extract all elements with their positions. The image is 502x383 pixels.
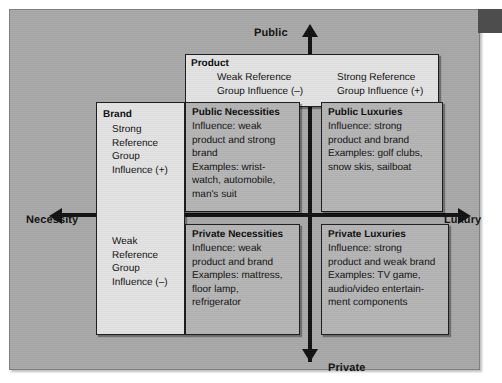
axis-label-private: Private (328, 362, 365, 374)
figure-canvas: Public Private Necessity Luxury Product … (9, 9, 480, 370)
text-line: brand (192, 147, 296, 161)
text-line: product and weak brand (328, 256, 445, 270)
axis-label-necessity: Necessity (26, 214, 78, 226)
text-line: Examples: mattress, (192, 269, 296, 283)
text-line: snow skis, sailboat (328, 161, 439, 175)
text-line: Strong Reference (337, 71, 423, 85)
product-header-box: Product Weak Reference Group Influence (… (185, 54, 439, 107)
product-header-left-column: Weak Reference Group Influence (–) (217, 71, 303, 98)
text-line: product and strong (192, 134, 296, 148)
text-line: audio/video entertain- (328, 283, 445, 297)
text-line: Examples: golf clubs, (328, 147, 439, 161)
text-line: Group (112, 262, 181, 276)
quadrant-private-necessities: Private Necessities Influence: weak prod… (185, 224, 300, 335)
quadrant-title: Private Luxuries (328, 229, 445, 241)
quadrant-body: Influence: strong product and weak brand… (328, 242, 445, 310)
product-header-right-column: Strong Reference Group Influence (+) (337, 71, 423, 98)
arrow-up-icon (302, 24, 318, 37)
text-line: Weak (112, 235, 181, 249)
text-line: Influence (+) (112, 164, 181, 178)
quadrant-public-luxuries: Public Luxuries Influence: strong produc… (321, 102, 443, 212)
quadrant-public-necessities: Public Necessities Influence: weak produ… (185, 102, 300, 212)
arrow-down-icon (302, 349, 318, 362)
quadrant-body: Influence: strong product and brand Exam… (328, 120, 439, 174)
brand-header-box: Brand Strong Reference Group Influence (… (96, 102, 185, 335)
brand-header-title: Brand (103, 109, 181, 121)
text-line: Reference (112, 137, 181, 151)
text-line: Strong (112, 123, 181, 137)
text-line: ment components (328, 296, 445, 310)
text-line: Influence: strong (328, 242, 445, 256)
text-line: Reference (112, 249, 181, 263)
quadrant-title: Public Luxuries (328, 107, 439, 119)
text-line: Group Influence (+) (337, 85, 423, 99)
text-line: floor lamp, (192, 283, 296, 297)
axis-label-public: Public (254, 27, 288, 39)
quadrant-body: Influence: weak product and strong brand… (192, 120, 296, 201)
text-line: product and brand (192, 256, 296, 270)
text-line: Weak Reference (217, 71, 303, 85)
text-line: refrigerator (192, 296, 296, 310)
text-line: Influence: strong (328, 120, 439, 134)
text-line: product and brand (328, 134, 439, 148)
quadrant-body: Influence: weak product and brand Exampl… (192, 242, 296, 310)
corner-tab-marker (478, 9, 502, 33)
text-line: Group (112, 150, 181, 164)
quadrant-private-luxuries: Private Luxuries Influence: strong produ… (321, 224, 449, 335)
quadrant-title: Public Necessities (192, 107, 296, 119)
quadrant-title: Private Necessities (192, 229, 296, 241)
text-line: Group Influence (–) (217, 85, 303, 99)
figure-root: Public Private Necessity Luxury Product … (0, 0, 502, 383)
text-line: man's suit (192, 188, 296, 202)
brand-header-upper: Strong Reference Group Influence (+) (103, 123, 181, 177)
axis-label-luxury: Luxury (444, 214, 481, 226)
text-line: watch, automobile, (192, 174, 296, 188)
text-line: Influence: weak (192, 120, 296, 134)
text-line: Influence: weak (192, 242, 296, 256)
brand-header-lower: Weak Reference Group Influence (–) (103, 235, 181, 289)
text-line: Influence (–) (112, 276, 181, 290)
text-line: Examples: wrist- (192, 161, 296, 175)
text-line: Examples: TV game, (328, 269, 445, 283)
product-header-title: Product (191, 58, 435, 70)
